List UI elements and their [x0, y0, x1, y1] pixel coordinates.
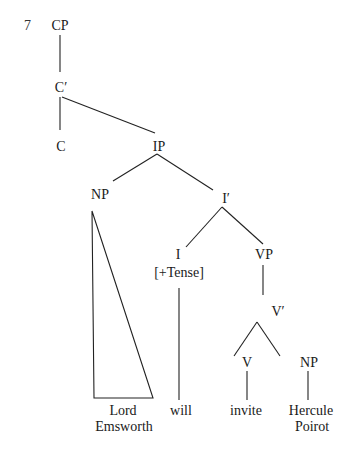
node-c: C — [56, 139, 65, 154]
node-cp: CP — [51, 18, 68, 33]
node-c-bar: C′ — [55, 80, 67, 95]
node-i: I — [176, 247, 181, 262]
node-i-bar: I′ — [222, 191, 230, 206]
tree-branches — [0, 0, 351, 456]
node-np-subject: NP — [91, 187, 109, 202]
example-number: 7 — [24, 18, 31, 34]
leaf-aux: will — [170, 403, 192, 418]
leaf-object-line2: Poirot — [295, 419, 329, 434]
node-v: V — [242, 355, 252, 370]
leaf-object-line1: Hercule — [289, 403, 333, 418]
node-vp: VP — [255, 247, 273, 262]
node-ip: IP — [153, 139, 165, 154]
leaf-subject-line2: Emsworth — [95, 419, 153, 434]
node-v-bar: V′ — [271, 304, 284, 319]
node-np-object: NP — [300, 355, 318, 370]
leaf-subject-line1: Lord — [109, 403, 136, 418]
leaf-verb: invite — [230, 403, 262, 418]
node-i-feature: [+Tense] — [154, 265, 204, 280]
